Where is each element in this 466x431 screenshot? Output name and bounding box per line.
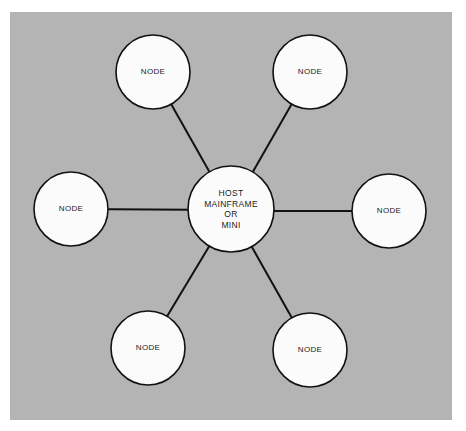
host-label-line-2: MAINFRAME [204,199,258,210]
node-right-label: NODE [377,206,401,216]
node-bottom-right-label: NODE [298,345,322,355]
host-label-line-3: OR [204,209,258,220]
node-left-label: NODE [59,204,83,214]
node-bottom-left-label: NODE [136,343,160,353]
host-label-line-1: HOST [204,188,258,199]
host-node-label: HOST MAINFRAME OR MINI [204,188,258,230]
host-label-line-4: MINI [204,220,258,231]
node-top-right-label: NODE [298,67,322,77]
node-top-left-label: NODE [141,67,165,77]
